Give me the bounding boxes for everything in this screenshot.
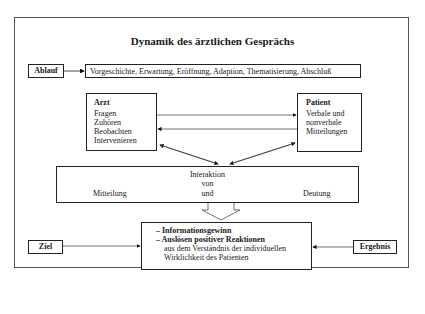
connector-arrows <box>0 0 425 314</box>
